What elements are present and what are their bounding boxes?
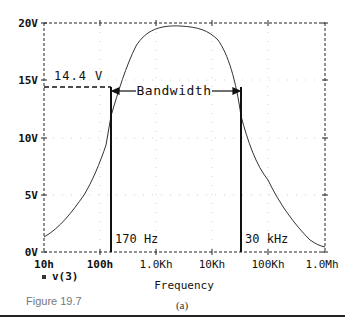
lower-cutoff-label: 170 Hz — [115, 232, 158, 246]
v3-curve — [44, 26, 325, 247]
x-tick-1kh: 1.0Kh — [139, 258, 172, 271]
y-tick-5v: 5V — [25, 189, 39, 202]
legend-label: v(3) — [52, 270, 79, 283]
legend-marker-icon — [42, 275, 46, 279]
level-label: 14.4 V — [54, 69, 103, 83]
x-tick-10kh: 10Kh — [199, 258, 226, 271]
x-tick-10h: 10h — [34, 258, 54, 271]
y-tick-15v: 15V — [18, 74, 38, 87]
x-axis-label: Frequency — [154, 279, 214, 292]
x-tick-100h: 100h — [87, 258, 114, 271]
bode-plot: 20V 15V 10V 5V 0V 10h 100h 1.0Kh 10Kh 10… — [0, 0, 345, 329]
y-tick-20v: 20V — [18, 17, 38, 30]
grid — [44, 23, 325, 252]
bandwidth-label: Bandwidth — [137, 83, 212, 98]
ticks — [41, 20, 328, 255]
y-tick-10v: 10V — [18, 132, 38, 145]
figure-caption: Figure 19.7 — [26, 295, 82, 307]
x-tick-100kh: 100Kh — [251, 258, 284, 271]
upper-cutoff-label: 30 kHz — [245, 232, 288, 246]
plot-frame — [44, 23, 325, 252]
x-tick-1mh: 1.0Mh — [305, 258, 338, 271]
figure-sublabel: (a) — [176, 299, 189, 312]
